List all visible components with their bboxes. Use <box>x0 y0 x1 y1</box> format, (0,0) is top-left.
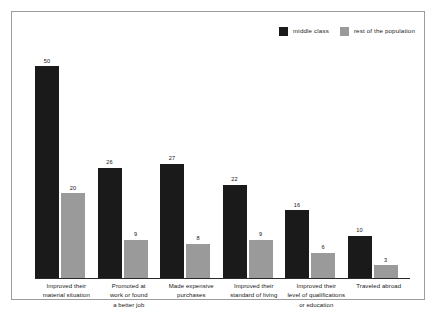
bar-traveled-abroad-middle-class: 10 <box>348 48 372 278</box>
bar-value: 3 <box>384 258 387 264</box>
x-axis-label-line: Improved their <box>36 282 97 291</box>
x-axis-category-labels: Improved their material situation Promot… <box>35 282 410 310</box>
bar-group-traveled-abroad: 10 3 <box>348 48 411 278</box>
bar-value: 20 <box>70 186 76 192</box>
bar-value: 16 <box>294 203 300 209</box>
x-axis-label-line: material situation <box>36 291 97 300</box>
bar-value: 6 <box>321 245 324 251</box>
x-axis-label-line: Improved their <box>224 282 285 291</box>
bar-value: 50 <box>44 59 50 65</box>
bar-rect <box>124 240 148 278</box>
bar-rect <box>285 210 309 278</box>
bar-value: 27 <box>169 156 175 162</box>
plot-area: 50 20 26 9 27 <box>29 30 414 260</box>
bar-value: 26 <box>106 160 112 166</box>
bar-groups: 50 20 26 9 27 <box>35 48 410 278</box>
x-axis-label-line: Promoted at <box>99 282 160 291</box>
bar-group-made-expensive-purchases: 27 8 <box>160 48 223 278</box>
bar-improved-standard-of-living-rest: 9 <box>249 48 273 278</box>
bar-rect <box>160 164 184 278</box>
bar-value: 9 <box>134 232 137 238</box>
x-axis-label-line: Made expensive <box>161 282 222 291</box>
x-axis-label-line: level of qualifications <box>286 291 347 300</box>
bar-improved-standard-of-living-middle-class: 22 <box>223 48 247 278</box>
x-axis-label-line: a better job <box>99 301 160 310</box>
bar-rect <box>249 240 273 278</box>
x-axis-label-line: Traveled abroad <box>349 282 410 291</box>
bar-value: 10 <box>356 228 362 234</box>
bar-rect <box>186 244 210 278</box>
x-axis-label-line: or education <box>286 301 347 310</box>
bar-rect <box>348 236 372 278</box>
bar-promoted-at-work-rest: 9 <box>124 48 148 278</box>
bar-made-expensive-purchases-middle-class: 27 <box>160 48 184 278</box>
bar-value: 8 <box>196 236 199 242</box>
bar-rect <box>61 193 85 278</box>
bar-made-expensive-purchases-rest: 8 <box>186 48 210 278</box>
bar-group-improved-material-situation: 50 20 <box>35 48 98 278</box>
bar-group-promoted-at-work: 26 9 <box>98 48 161 278</box>
bar-improved-material-situation-rest: 20 <box>61 48 85 278</box>
bar-value: 9 <box>259 232 262 238</box>
bar-improved-material-situation-middle-class: 50 <box>35 48 59 278</box>
bar-improved-qualifications-rest: 6 <box>311 48 335 278</box>
x-axis-label-line: standard of living <box>224 291 285 300</box>
x-axis-label-improved-material-situation: Improved their material situation <box>35 282 98 310</box>
chart-frame: middle class rest of the population 50 2… <box>11 11 425 300</box>
bar-improved-qualifications-middle-class: 16 <box>285 48 309 278</box>
x-axis-label-line: work or found <box>99 291 160 300</box>
bar-group-improved-standard-of-living: 22 9 <box>223 48 286 278</box>
x-axis-label-improved-standard-of-living: Improved their standard of living <box>223 282 286 310</box>
x-axis-label-traveled-abroad: Traveled abroad <box>348 282 411 310</box>
x-axis-label-line: purchases <box>161 291 222 300</box>
bar-rect <box>374 265 398 278</box>
x-axis-label-made-expensive-purchases: Made expensive purchases <box>160 282 223 310</box>
x-axis-label-line: Improved their <box>286 282 347 291</box>
bar-rect <box>311 253 335 278</box>
x-axis-label-improved-qualifications: Improved their level of qualifications o… <box>285 282 348 310</box>
x-axis-label-promoted-at-work: Promoted at work or found a better job <box>98 282 161 310</box>
x-axis-baseline <box>35 278 410 279</box>
bar-rect <box>35 66 59 278</box>
bar-value: 22 <box>231 177 237 183</box>
bar-traveled-abroad-rest: 3 <box>374 48 398 278</box>
bar-rect <box>223 185 247 278</box>
bar-promoted-at-work-middle-class: 26 <box>98 48 122 278</box>
bar-group-improved-qualifications: 16 6 <box>285 48 348 278</box>
bar-rect <box>98 168 122 278</box>
